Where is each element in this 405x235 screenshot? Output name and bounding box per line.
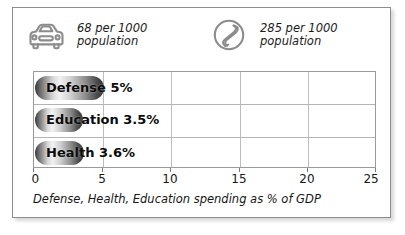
spending-bar-chart: Defense 5%Education 3.5%Health 3.6% 0510…: [33, 71, 376, 211]
chart-bar-label-education: Education 3.5%: [46, 110, 159, 130]
chart-bar-label-health: Health 3.6%: [46, 143, 135, 163]
axis-tick-label: 10: [162, 172, 177, 186]
axis-tick-label: 15: [231, 172, 246, 186]
chart-caption: Defense, Health, Education spending as %…: [33, 192, 376, 206]
chart-bar-row: Defense 5%: [34, 72, 375, 104]
chart-plot-area: Defense 5%Education 3.5%Health 3.6%: [33, 71, 376, 168]
stat-unit-phones: population: [260, 35, 338, 49]
infographic-card: 68 per 1000 population 285 per 1000 popu…: [12, 7, 391, 218]
stats-row: 68 per 1000 population 285 per 1000 popu…: [13, 8, 390, 70]
telephone-icon: [207, 14, 251, 56]
chart-bar-label-defense: Defense 5%: [46, 78, 133, 98]
chart-bar-row: Education 3.5%: [34, 104, 375, 136]
stat-block-cars: 68 per 1000 population: [24, 14, 147, 56]
stat-value-cars: 68 per 1000: [77, 22, 147, 36]
stat-unit-cars: population: [77, 35, 147, 49]
car-icon: [24, 14, 68, 56]
stat-block-phones: 285 per 1000 population: [207, 14, 338, 56]
chart-x-axis: 0510152025: [33, 168, 376, 190]
stat-text-cars: 68 per 1000 population: [77, 22, 147, 49]
chart-bar-row: Health 3.6%: [34, 137, 375, 168]
axis-tick-label: 5: [98, 172, 106, 186]
axis-tick-label: 25: [363, 172, 378, 186]
axis-tick-label: 20: [299, 172, 314, 186]
stat-value-phones: 285 per 1000: [260, 22, 338, 36]
stat-text-phones: 285 per 1000 population: [260, 22, 338, 49]
axis-tick-label: 0: [32, 172, 40, 186]
